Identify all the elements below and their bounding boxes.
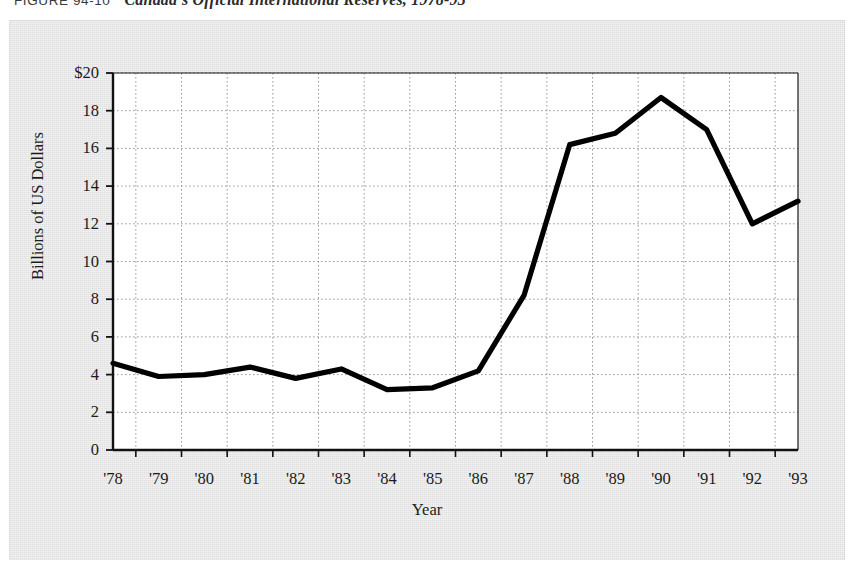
y-tick-label: 0 — [39, 440, 99, 460]
y-tick-label: 16 — [39, 138, 99, 158]
x-tick-label: '78 — [91, 469, 135, 489]
y-tick-label: 2 — [39, 402, 99, 422]
y-tick-label: $20 — [39, 63, 99, 83]
line-chart — [0, 0, 854, 577]
y-tick-label: 6 — [39, 327, 99, 347]
y-tick-label: 10 — [39, 252, 99, 272]
y-tick-label: 12 — [39, 214, 99, 234]
x-tick-label: '89 — [593, 469, 637, 489]
y-tick-label: 18 — [39, 101, 99, 121]
x-tick-label: '92 — [730, 469, 774, 489]
x-tick-label: '83 — [319, 469, 363, 489]
x-tick-label: '79 — [137, 469, 181, 489]
x-tick-label: '82 — [274, 469, 318, 489]
x-tick-label: '81 — [228, 469, 272, 489]
x-tick-label: '88 — [548, 469, 592, 489]
y-tick-label: 8 — [39, 289, 99, 309]
x-tick-label: '93 — [776, 469, 820, 489]
x-tick-label: '87 — [502, 469, 546, 489]
x-tick-label: '80 — [182, 469, 226, 489]
x-tick-label: '85 — [411, 469, 455, 489]
x-tick-label: '91 — [685, 469, 729, 489]
y-tick-label: 14 — [39, 176, 99, 196]
x-tick-label: '86 — [456, 469, 500, 489]
x-tick-label: '84 — [365, 469, 409, 489]
y-tick-label: 4 — [39, 365, 99, 385]
x-tick-label: '90 — [639, 469, 683, 489]
